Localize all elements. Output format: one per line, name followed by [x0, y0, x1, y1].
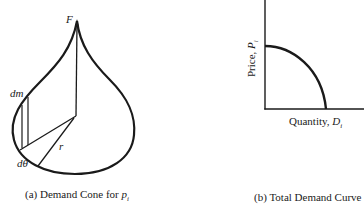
diagram-canvas — [0, 0, 364, 219]
cone-outline — [13, 21, 135, 174]
caption-a-sub: i — [127, 195, 129, 203]
x-axis-label-sub: i — [340, 122, 342, 130]
apex-label: F — [66, 14, 73, 25]
y-axis-label-var: P — [245, 42, 257, 49]
y-axis-label-text: Price, — [245, 49, 257, 77]
cone-axis — [76, 24, 77, 116]
x-axis-label: Quantity, Di — [289, 116, 342, 130]
demand-cone — [13, 19, 135, 174]
demand-chart — [264, 0, 364, 110]
y-axis-label-sub: i — [252, 40, 260, 42]
radius-line — [38, 118, 74, 166]
x-axis-label-text: Quantity, — [289, 115, 332, 127]
demand-curve — [265, 46, 326, 109]
caption-a: (a) Demand Cone for pi — [25, 189, 129, 203]
mass-element-label: dm — [10, 88, 23, 99]
y-axis-label: Price, Pi — [246, 40, 260, 77]
angle-element-label: dθ — [17, 158, 28, 169]
caption-b: (b) Total Demand Curve — [254, 192, 361, 203]
caption-a-text: (a) Demand Cone for — [25, 188, 122, 200]
radius-label: r — [59, 141, 63, 152]
